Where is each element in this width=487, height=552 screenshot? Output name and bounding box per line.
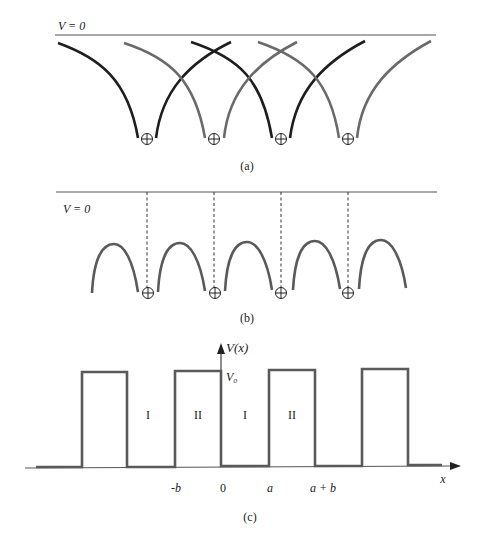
- hump: [158, 243, 205, 292]
- ion-icon: [276, 134, 287, 145]
- region-label-I: I: [243, 408, 247, 422]
- potential-curve-right-3: [290, 41, 365, 138]
- x-axis-arrow-icon: [450, 462, 461, 470]
- screened-potential-humps: [92, 240, 406, 293]
- v0-label: V₀: [226, 370, 238, 384]
- caption-c: (c): [243, 510, 256, 524]
- y-axis-label: V(x): [226, 340, 248, 355]
- ion-icon: [143, 288, 154, 299]
- ion-group-a: [142, 134, 354, 145]
- region-label-II: II: [194, 408, 202, 422]
- region-label-II: II: [288, 408, 296, 422]
- x-axis-label: x: [439, 472, 446, 486]
- y-axis-arrow-icon: [217, 343, 225, 354]
- ion-icon: [343, 134, 354, 145]
- periodic-square-potential: [36, 369, 442, 467]
- panel-c: V(x) V₀ I II I II -b 0 a a + b x (c): [25, 340, 461, 524]
- panel-a: V = 0 (a): [55, 19, 436, 173]
- ion-icon: [209, 134, 220, 145]
- panel-b: V = 0 (b): [56, 192, 437, 325]
- v-zero-label: V = 0: [63, 202, 90, 216]
- kronig-penney-diagram: V = 0 (a) V = 0: [0, 0, 487, 552]
- hump: [359, 240, 406, 289]
- hump: [225, 242, 272, 291]
- tick-label-neg-b: -b: [171, 481, 181, 495]
- v-zero-label: V = 0: [58, 19, 85, 33]
- tick-label-a: a: [267, 481, 273, 495]
- hump: [293, 241, 340, 290]
- potential-curve-left-1: [58, 43, 138, 138]
- tick-label-zero: 0: [220, 481, 226, 495]
- ion-position-markers: [147, 192, 348, 288]
- ion-group-b: [143, 288, 354, 299]
- tick-label-a-plus-b: a + b: [310, 481, 336, 495]
- ion-icon: [276, 288, 287, 299]
- caption-b: (b): [240, 311, 254, 325]
- potential-curve-right-2: [224, 42, 297, 138]
- potential-curve-right-4: [357, 41, 431, 138]
- caption-a: (a): [240, 159, 253, 173]
- ion-icon: [142, 134, 153, 145]
- ion-icon: [343, 288, 354, 299]
- hump: [92, 244, 138, 293]
- ion-icon: [210, 288, 221, 299]
- potential-curve-right-1: [156, 42, 231, 138]
- region-label-I: I: [146, 408, 150, 422]
